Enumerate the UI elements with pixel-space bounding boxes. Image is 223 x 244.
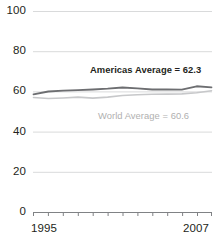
- x-tick-label-2007: 2007: [183, 222, 209, 234]
- gridlines: [33, 12, 212, 173]
- y-tick-label-100: 100: [0, 4, 26, 16]
- x-axis-ticks: [34, 213, 212, 217]
- y-tick-label-0: 0: [0, 205, 26, 217]
- y-tick-label-80: 80: [0, 44, 26, 56]
- chart-canvas: [0, 0, 223, 244]
- x-tick-label-1995: 1995: [31, 222, 57, 234]
- world-average-label: World Average = 60.6: [98, 110, 189, 121]
- y-tick-label-60: 60: [0, 84, 26, 96]
- y-tick-label-20: 20: [0, 165, 26, 177]
- line-chart: 100 80 60 40 20 0 1995 2007 Americas Ave…: [0, 0, 223, 244]
- y-tick-label-40: 40: [0, 125, 26, 137]
- americas-average-label: Americas Average = 62.3: [90, 64, 201, 75]
